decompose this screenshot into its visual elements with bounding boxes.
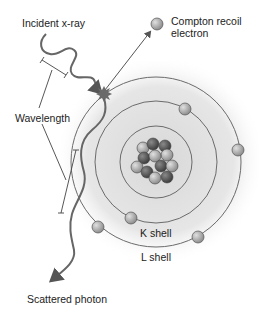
compton-label-line2: electron bbox=[171, 27, 242, 39]
wavelength-label: Wavelength bbox=[15, 112, 70, 124]
compton-label-line1: Compton recoil bbox=[171, 15, 242, 27]
k-shell-label: K shell bbox=[140, 227, 172, 239]
electron bbox=[179, 103, 191, 115]
scattered-photon-label: Scattered photon bbox=[27, 293, 107, 305]
l-shell-label: L shell bbox=[141, 251, 171, 263]
electron bbox=[232, 144, 244, 156]
compton-recoil-electron bbox=[151, 18, 163, 30]
electron bbox=[92, 221, 104, 233]
electron bbox=[192, 231, 204, 243]
incident-xray-label: Incident x-ray bbox=[22, 17, 85, 29]
compton-recoil-electron-label: Compton recoil electron bbox=[171, 15, 242, 39]
compton-scattering-diagram bbox=[0, 0, 259, 315]
electron bbox=[125, 212, 137, 224]
